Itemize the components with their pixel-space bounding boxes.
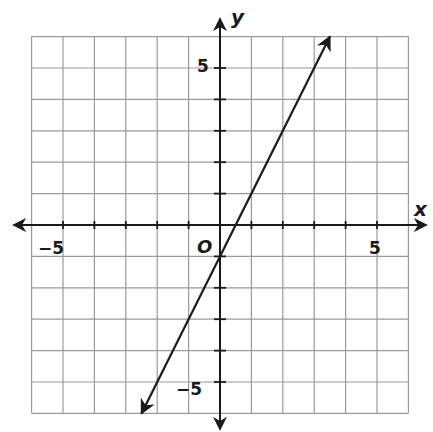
origin-label: O (197, 236, 212, 257)
y-tick-label-5: 5 (197, 56, 209, 76)
y-tick-label-neg5: −5 (176, 379, 202, 399)
axis-labels: x y O −5 5 5 −5 (38, 5, 428, 399)
x-tick-label-5: 5 (369, 238, 381, 258)
coordinate-plane: x y O −5 5 5 −5 (0, 0, 433, 432)
y-axis-label: y (231, 5, 245, 29)
axes (14, 19, 427, 430)
x-tick-label-neg5: −5 (38, 238, 64, 258)
x-axis-label: x (413, 197, 428, 221)
